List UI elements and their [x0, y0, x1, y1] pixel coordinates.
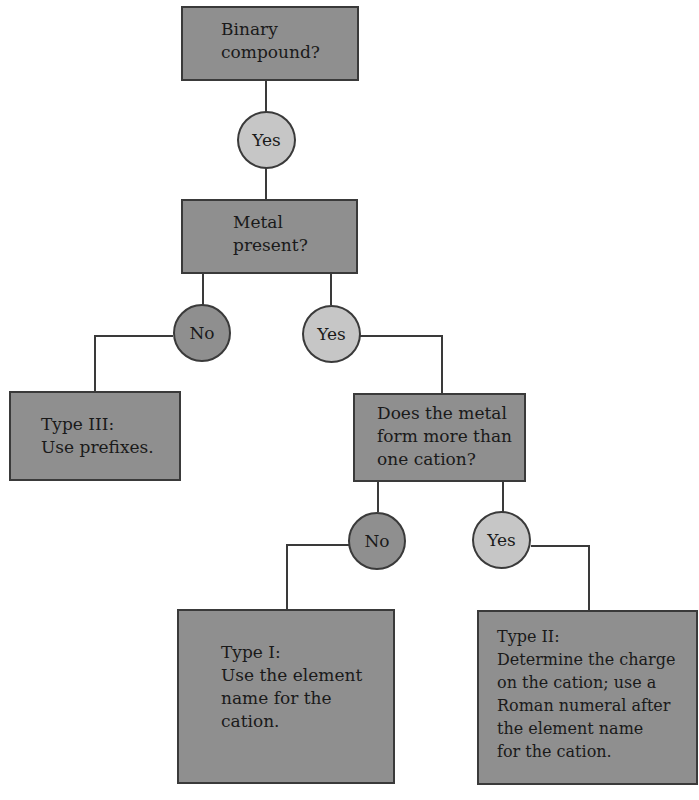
- box-text-line: on the cation; use a: [497, 671, 696, 694]
- box-text-line: form more than: [377, 425, 524, 448]
- box-text-line: name for the: [221, 687, 393, 710]
- binary-compound-box: Binary compound?: [181, 6, 359, 81]
- box-text-line: Determine the charge: [497, 648, 696, 671]
- decision-label: Yes: [487, 530, 516, 550]
- type2-box: Type II: Determine the charge on the cat…: [477, 610, 698, 785]
- box-text-line: present?: [233, 234, 356, 257]
- decision-yes-metal: Yes: [302, 305, 361, 363]
- box-text-line: the element name: [497, 717, 696, 740]
- type3-box: Type III: Use prefixes.: [9, 391, 181, 481]
- type1-box: Type I: Use the element name for the cat…: [177, 609, 395, 784]
- decision-label: No: [364, 531, 389, 551]
- metal-present-box: Metal present?: [181, 199, 358, 274]
- box-text-line: cation.: [221, 710, 393, 733]
- box-text-line: compound?: [221, 41, 357, 64]
- box-text-line: Use the element: [221, 664, 393, 687]
- multiple-cation-box: Does the metal form more than one cation…: [353, 393, 526, 482]
- box-text-line: one cation?: [377, 448, 524, 471]
- decision-label: No: [189, 323, 214, 343]
- decision-yes-cation: Yes: [472, 511, 531, 569]
- box-text-line: Type I:: [221, 641, 393, 664]
- decision-no-metal: No: [173, 304, 231, 362]
- box-text-line: Use prefixes.: [41, 436, 179, 459]
- decision-yes-binary: Yes: [237, 111, 296, 169]
- box-text-line: Binary: [221, 18, 357, 41]
- decision-no-cation: No: [348, 512, 406, 570]
- box-text-line: Roman numeral after: [497, 694, 696, 717]
- box-text-line: for the cation.: [497, 740, 696, 763]
- decision-label: Yes: [317, 324, 346, 344]
- box-text-line: Type II:: [497, 625, 696, 648]
- box-text-line: Does the metal: [377, 402, 524, 425]
- box-text-line: Type III:: [41, 413, 179, 436]
- decision-label: Yes: [252, 130, 281, 150]
- box-text-line: Metal: [233, 211, 356, 234]
